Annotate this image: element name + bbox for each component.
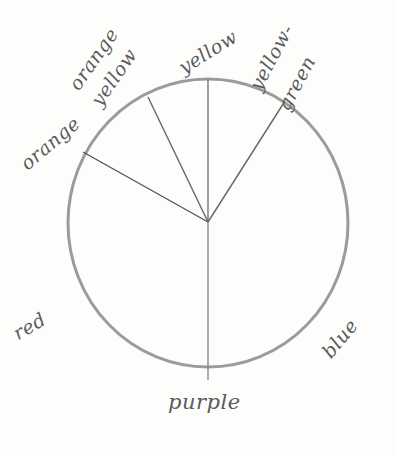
- divider-orange: [83, 152, 208, 222]
- label-purple: purple: [168, 390, 241, 414]
- divider-orange-yellow: [148, 97, 208, 222]
- divider-yellow-green: [208, 101, 285, 222]
